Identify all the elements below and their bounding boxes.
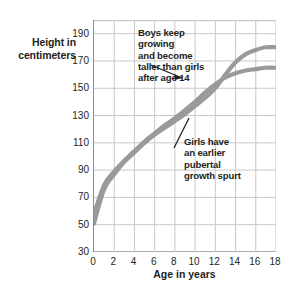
y-tick-label: 90 xyxy=(55,165,89,175)
boys-annotation: Boys keep growing and become taller than… xyxy=(138,27,222,83)
girls-annotation-line-3: pubertal xyxy=(184,159,262,170)
y-tick-label: 170 xyxy=(55,56,89,66)
girls-annotation-line-1: Girls have xyxy=(184,136,262,147)
x-tick-label: 6 xyxy=(146,257,162,267)
x-tick-label: 18 xyxy=(267,257,283,267)
girls-annotation: Girls have an earlier pubertal growth sp… xyxy=(184,136,262,181)
boys-annotation-line-3: taller than girls xyxy=(138,61,222,72)
x-axis-title: Age in years xyxy=(93,268,276,280)
x-tick-label: 0 xyxy=(85,257,101,267)
boys-annotation-line-2: and become xyxy=(138,50,222,61)
y-tick-label: 130 xyxy=(55,111,89,121)
x-tick-label: 8 xyxy=(166,257,182,267)
girls-annotation-line-2: an earlier xyxy=(184,147,262,158)
y-tick-label: 50 xyxy=(55,220,89,230)
boys-annotation-line-1: Boys keep growing xyxy=(138,27,222,50)
y-tick-label: 190 xyxy=(55,29,89,39)
x-tick-label: 16 xyxy=(247,257,263,267)
y-tick-label: 150 xyxy=(55,83,89,93)
x-tick-label: 4 xyxy=(125,257,141,267)
girls-annotation-line-4: growth spurt xyxy=(184,170,262,181)
x-tick-label: 12 xyxy=(206,257,222,267)
x-tick-label: 2 xyxy=(105,257,121,267)
y-tick-label: 110 xyxy=(55,138,89,148)
y-tick-label: 70 xyxy=(55,192,89,202)
x-tick-label: 10 xyxy=(186,257,202,267)
boys-annotation-line-4: after age 14 xyxy=(138,72,222,83)
x-tick-label: 14 xyxy=(227,257,243,267)
y-tick-label: 30 xyxy=(55,247,89,257)
growth-chart-figure: Height in centimeters 305070901101301501… xyxy=(0,0,294,288)
